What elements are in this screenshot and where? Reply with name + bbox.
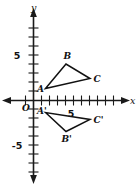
triangle-abc-outline <box>46 64 91 89</box>
y-axis-arrow-down <box>30 175 37 184</box>
vertex-label-a-prime: A' <box>36 106 47 116</box>
y-axis-group: y 5 -5 <box>12 2 39 184</box>
vertex-label-b: B <box>63 51 72 61</box>
origin-label: O <box>22 103 30 113</box>
coordinate-plane-figure: y 5 -5 x 5 O A <box>0 0 139 186</box>
y-tick-label-minus-5: -5 <box>12 140 23 151</box>
x-axis-arrow-right <box>121 97 130 104</box>
x-axis-arrow-left <box>2 97 11 104</box>
x-axis-group: x 5 O <box>2 95 136 120</box>
y-tick-label-5: 5 <box>14 50 21 61</box>
y-axis-label: y <box>30 2 37 13</box>
vertex-label-a: A <box>36 84 44 94</box>
vertex-label-c: C <box>94 74 102 84</box>
coordinate-plane-svg: y 5 -5 x 5 O A <box>0 0 139 186</box>
x-axis-label: x <box>130 95 136 106</box>
vertex-label-b-prime: B' <box>61 134 72 144</box>
vertex-label-c-prime: C' <box>94 115 104 125</box>
triangle-abc: A B C <box>36 51 102 94</box>
triangle-a-prime-b-prime-c-prime-outline <box>46 113 91 132</box>
